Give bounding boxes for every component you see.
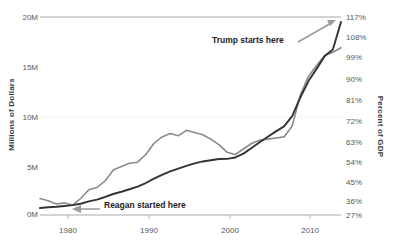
chart-container: Millions of Dollars Percent of GDP 20M 1… — [0, 0, 393, 248]
series-line-percent-of-gdp — [40, 48, 341, 205]
reagan-annotation-arrow — [72, 205, 100, 213]
trump-annotation-arrow — [298, 20, 336, 42]
plot-area — [0, 0, 393, 248]
